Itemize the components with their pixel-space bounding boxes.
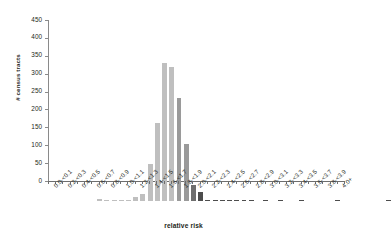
y-axis-tick-label: 450	[2, 16, 42, 23]
y-axis-tick-label: 400	[2, 33, 42, 40]
y-axis-tick-label: 100	[2, 141, 42, 148]
x-axis-tick-labels: 0.0-<0.10.2-<0.30.4-<0.50.6-<0.70.8-<0.9…	[48, 184, 348, 224]
y-axis-tick-label: 200	[2, 105, 42, 112]
y-axis-tick-label: 350	[2, 51, 42, 58]
y-axis-tick-label: 0	[2, 177, 42, 184]
y-axis-tick-label: 300	[2, 69, 42, 76]
plot-area	[48, 20, 344, 181]
y-axis-tick-label: 50	[2, 159, 42, 166]
x-axis-title: relative risk	[0, 222, 367, 229]
bar	[386, 200, 391, 201]
y-axis-tick-label: 250	[2, 87, 42, 94]
y-axis-tick-label: 150	[2, 123, 42, 130]
